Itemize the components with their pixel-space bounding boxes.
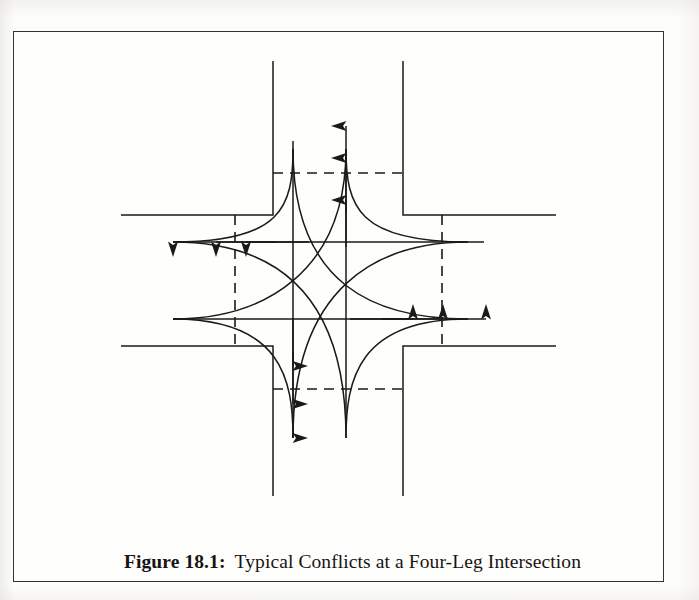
stop-bars xyxy=(235,173,442,389)
path-right-turn-se xyxy=(346,319,468,438)
figure-frame-border: Figure 18.1:Typical Conflicts at a Four-… xyxy=(13,31,664,582)
path-left-turn-w-to-n xyxy=(173,149,346,319)
four-leg-intersection-diagram xyxy=(14,32,665,583)
curb-south-east xyxy=(403,346,556,496)
figure-caption-label: Figure 18.1: xyxy=(124,551,226,572)
curb-north-west xyxy=(121,61,273,215)
path-right-turn-nw xyxy=(173,149,293,242)
figure-caption-text: Typical Conflicts at a Four-Leg Intersec… xyxy=(235,551,582,572)
path-right-turn-ne xyxy=(346,149,468,242)
figure-caption: Figure 18.1:Typical Conflicts at a Four-… xyxy=(27,551,678,573)
path-right-turn-sw xyxy=(173,319,293,438)
curb-south-west xyxy=(121,346,273,496)
curb-north-east xyxy=(403,61,556,215)
path-left-turn-s-to-w xyxy=(173,242,346,438)
scanned-page: Figure 18.1:Typical Conflicts at a Four-… xyxy=(0,0,699,600)
turning-movement-paths xyxy=(173,149,468,438)
